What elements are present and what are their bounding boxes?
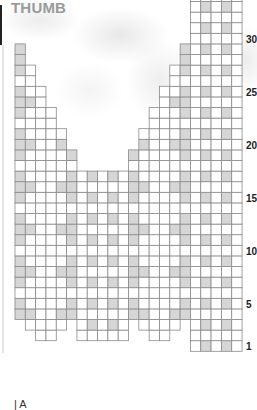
chart-cell [36, 214, 46, 225]
chart-cell [211, 320, 221, 331]
chart-cell [170, 118, 180, 129]
chart-cell [129, 245, 139, 256]
chart-cell-shaded [87, 277, 97, 288]
chart-cell [201, 0, 211, 2]
chart-cell [98, 330, 108, 341]
chart-cell [149, 267, 159, 278]
chart-cell-shaded [67, 192, 77, 203]
chart-cell [211, 129, 221, 140]
chart-cell [211, 192, 221, 203]
chart-cell-shaded [87, 320, 97, 331]
chart-cell [190, 44, 200, 55]
chart-cell [159, 182, 169, 193]
chart-cell [190, 55, 200, 66]
chart-cell-shaded [221, 277, 231, 288]
chart-cell [232, 97, 242, 108]
chart-cell [139, 277, 149, 288]
chart-cell [170, 150, 180, 161]
chart-cell [159, 320, 169, 331]
chart-cell [159, 224, 169, 235]
chart-cell [15, 288, 25, 299]
chart-cell [190, 65, 200, 76]
chart-cell-shaded [170, 267, 180, 278]
chart-cell [159, 203, 169, 214]
chart-cell [201, 182, 211, 193]
chart-cell [129, 288, 139, 299]
chart-cell [77, 277, 87, 288]
chart-cell [211, 235, 221, 246]
chart-cell [232, 182, 242, 193]
chart-cell-shaded [108, 298, 118, 309]
row-label-25: 25 [246, 87, 257, 98]
chart-cell [232, 171, 242, 182]
chart-cell [190, 320, 200, 331]
row-label-20: 20 [246, 140, 257, 151]
chart-cell-shaded [180, 171, 190, 182]
chart-cell [190, 298, 200, 309]
chart-cell [56, 298, 66, 309]
chart-cell-shaded [15, 256, 25, 267]
chart-cell [46, 309, 56, 320]
chart-cell [36, 203, 46, 214]
chart-cell [118, 235, 128, 246]
chart-cell [232, 2, 242, 13]
chart-cell [36, 224, 46, 235]
chart-cell [25, 203, 35, 214]
chart-cell [46, 267, 56, 278]
chart-cell [36, 161, 46, 172]
chart-cell [190, 2, 200, 13]
chart-cell-shaded [56, 309, 66, 320]
chart-cell [232, 309, 242, 320]
chart-cell [77, 298, 87, 309]
chart-cell [46, 192, 56, 203]
chart-cell [180, 118, 190, 129]
chart-cell-shaded [15, 171, 25, 182]
chart-cell [15, 161, 25, 172]
chart-cell [232, 65, 242, 76]
chart-cell [25, 192, 35, 203]
chart-cell [46, 224, 56, 235]
chart-cell [118, 320, 128, 331]
chart-cell-shaded [67, 235, 77, 246]
chart-cell-shaded [180, 256, 190, 267]
chart-cell-shaded [180, 214, 190, 225]
chart-cell [211, 203, 221, 214]
chart-cell [149, 277, 159, 288]
chart-cell [159, 150, 169, 161]
chart-cell-shaded [170, 139, 180, 150]
chart-cell [139, 192, 149, 203]
chart-cell [46, 129, 56, 140]
chart-cell [159, 256, 169, 267]
chart-cell [15, 76, 25, 87]
chart-cell [36, 330, 46, 341]
chart-cell-shaded [15, 298, 25, 309]
chart-cell-shaded [139, 139, 149, 150]
chart-cell [77, 203, 87, 214]
chart-cell [221, 97, 231, 108]
bottom-partial-label: | A [14, 398, 27, 410]
chart-cell-shaded [67, 150, 77, 161]
chart-cell [98, 203, 108, 214]
chart-cell [190, 171, 200, 182]
row-label-30: 30 [246, 34, 257, 45]
chart-cell [98, 288, 108, 299]
chart-cell-shaded [108, 277, 118, 288]
chart-cell [87, 288, 97, 299]
chart-cell-shaded [67, 277, 77, 288]
chart-cell [211, 182, 221, 193]
chart-cell-shaded [201, 2, 211, 13]
chart-cell-shaded [56, 267, 66, 278]
chart-cell-shaded [108, 171, 118, 182]
chart-cell [139, 129, 149, 140]
chart-cell-shaded [180, 267, 190, 278]
chart-cell [211, 171, 221, 182]
chart-cell [108, 203, 118, 214]
chart-cell [159, 288, 169, 299]
chart-cell [232, 203, 242, 214]
chart-cell-shaded [15, 108, 25, 119]
chart-cell-shaded [221, 192, 231, 203]
chart-cell [56, 288, 66, 299]
chart-cell [118, 245, 128, 256]
chart-cell [149, 203, 159, 214]
chart-cell [15, 118, 25, 129]
